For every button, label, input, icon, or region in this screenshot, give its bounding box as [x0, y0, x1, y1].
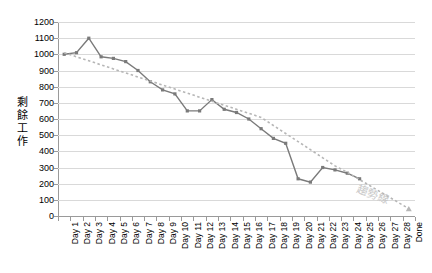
data-point-marker	[87, 37, 90, 40]
x-axis-tick-label-text: Day 14	[231, 222, 240, 249]
x-axis-tick-label: Day 27	[388, 222, 397, 249]
x-axis-tick-mark	[317, 217, 318, 221]
x-axis-tick-label-text: Day 7	[145, 222, 154, 244]
x-axis-tick-label: Day 26	[375, 222, 384, 249]
burndown-chart: 剩 餘 工 作 12001100100090080070060050040030…	[0, 0, 432, 273]
x-axis-tick-label-text: Day 12	[206, 222, 215, 249]
x-axis-tick-mark	[83, 217, 84, 221]
x-axis-tick-mark	[292, 217, 293, 221]
x-axis-tick-label-text: Done	[415, 222, 424, 242]
y-axis-tick-label: 700	[28, 98, 54, 107]
x-axis-tick-mark	[366, 217, 367, 221]
x-axis-tick-label-text: Day 10	[181, 222, 190, 249]
data-point-marker	[136, 69, 139, 72]
data-point-marker	[309, 181, 312, 184]
x-axis-tick-mark	[390, 217, 391, 221]
x-axis-tick-mark	[353, 217, 354, 221]
data-point-marker	[260, 127, 263, 130]
x-axis-tick-label-text: Day 17	[268, 222, 277, 249]
x-axis-tick-label: Day 13	[215, 222, 224, 249]
x-axis-tick-label: Day 6	[129, 222, 138, 244]
y-axis-tick-label: 1000	[28, 50, 54, 59]
x-axis-tick-label: Day 4	[105, 222, 114, 244]
trendline-end-marker	[406, 206, 412, 211]
y-axis-tick-labels: 1200110010009008007006005004003002001000	[26, 0, 54, 273]
y-axis-tick-label: 200	[28, 179, 54, 188]
x-axis-tick-label: Day 28	[400, 222, 409, 249]
x-axis-tick-label: Day 24	[351, 222, 360, 249]
x-axis-tick-mark	[181, 217, 182, 221]
x-axis-tick-mark	[378, 217, 379, 221]
x-axis-tick-label: Day 20	[302, 222, 311, 249]
x-axis-tick-label-text: Day 20	[305, 222, 314, 249]
x-axis-tick-label: Day 15	[240, 222, 249, 249]
data-point-marker	[186, 109, 189, 112]
data-point-marker	[235, 111, 238, 114]
data-point-marker	[297, 177, 300, 180]
data-point-marker	[272, 137, 275, 140]
data-point-marker	[161, 88, 164, 91]
x-axis-tick-label-text: Day 6	[132, 222, 141, 244]
x-axis-tick-mark	[255, 217, 256, 221]
x-axis-tick-mark	[70, 217, 71, 221]
y-axis-tick-label: 900	[28, 66, 54, 75]
x-axis-tick-label-text: Day 18	[280, 222, 289, 249]
x-axis-tick-label-text: Day 25	[366, 222, 375, 249]
x-axis-tick-mark	[218, 217, 219, 221]
x-axis-tick-label-text: Day 21	[317, 222, 326, 249]
data-point-marker	[284, 142, 287, 145]
x-axis-tick-label: Day 5	[117, 222, 126, 244]
x-axis-tick-label-text: Day 13	[218, 222, 227, 249]
data-point-marker	[173, 92, 176, 95]
x-axis-line	[58, 216, 415, 217]
data-point-marker	[321, 166, 324, 169]
x-axis-tick-label: Day 11	[191, 222, 200, 248]
x-axis-tick-mark	[169, 217, 170, 221]
data-point-marker	[223, 108, 226, 111]
x-axis-tick-mark	[329, 217, 330, 221]
x-axis-tick-label: Day 3	[92, 222, 101, 244]
x-axis-tick-label: Done	[412, 222, 421, 242]
x-axis-tick-label: Day 25	[363, 222, 372, 249]
x-axis-tick-label: Day 23	[338, 222, 347, 249]
x-axis-tick-label-text: Day 16	[255, 222, 264, 249]
series-line	[64, 38, 359, 182]
y-axis-tick-label: 600	[28, 115, 54, 124]
x-axis-tick-label-text: Day 1	[71, 222, 80, 244]
x-axis-tick-mark	[304, 217, 305, 221]
x-axis-tick-label: Day 16	[252, 222, 261, 249]
data-point-marker	[112, 57, 115, 60]
x-axis-tick-label: Day 9	[166, 222, 175, 244]
x-axis-tick-mark	[132, 217, 133, 221]
x-axis-tick-label: Day 14	[228, 222, 237, 249]
x-axis-tick-label: Day 10	[178, 222, 187, 249]
y-axis-tick-label: 300	[28, 163, 54, 172]
x-axis-tick-label-text: Day 5	[120, 222, 129, 244]
x-axis-tick-mark	[230, 217, 231, 221]
x-axis-tick-mark	[156, 217, 157, 221]
x-axis-tick-label-text: Day 19	[292, 222, 301, 249]
y-axis-tick-label: 1100	[28, 34, 54, 43]
x-axis-tick-label: Day 18	[277, 222, 286, 249]
x-axis-tick-label: Day 7	[142, 222, 151, 244]
x-axis-tick-label-text: Day 28	[403, 222, 412, 249]
x-axis-tick-mark	[243, 217, 244, 221]
data-point-marker	[198, 109, 201, 112]
data-point-marker	[333, 168, 336, 171]
x-axis-tick-label-text: Day 8	[157, 222, 166, 244]
x-axis-tick-mark	[280, 217, 281, 221]
x-axis-tick-label-text: Day 9	[169, 222, 178, 244]
x-axis-tick-label-text: Day 22	[329, 222, 338, 249]
y-axis-tick-label: 0	[28, 212, 54, 221]
data-point-marker	[124, 60, 127, 63]
x-axis-tick-label: Day 17	[265, 222, 274, 249]
x-axis-tick-mark	[107, 217, 108, 221]
x-axis-tick-label: Day 8	[154, 222, 163, 244]
x-axis-tick-mark	[95, 217, 96, 221]
x-axis-tick-labels: Day 1Day 2Day 3Day 4Day 5Day 6Day 7Day 8…	[58, 222, 415, 273]
data-point-marker	[247, 117, 250, 120]
x-axis-tick-label-text: Day 24	[354, 222, 363, 249]
y-axis-tick-label: 400	[28, 147, 54, 156]
x-axis-tick-label: Day 1	[68, 222, 77, 244]
x-axis-tick-label-text: Day 26	[378, 222, 387, 249]
